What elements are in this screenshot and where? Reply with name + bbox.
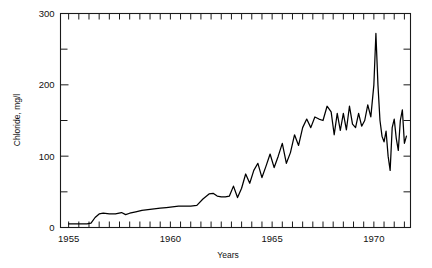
- x-axis-title: Years: [217, 250, 238, 260]
- x-tick-label: 1955: [58, 233, 79, 244]
- y-tick-label: 0: [49, 222, 54, 233]
- chart-figure: 0100200300 1955196019651970 Chloride, mg…: [0, 0, 432, 268]
- chart-canvas: 0100200300 1955196019651970 Chloride, mg…: [0, 0, 432, 268]
- x-tick-label: 1965: [262, 233, 283, 244]
- y-tick-label: 300: [39, 8, 55, 19]
- y-tick-label: 100: [39, 151, 55, 162]
- y-tick-label: 200: [39, 79, 55, 90]
- y-axis-title: Chloride, mg/l: [12, 94, 22, 147]
- x-tick-label: 1970: [363, 233, 384, 244]
- x-tick-label: 1960: [160, 233, 181, 244]
